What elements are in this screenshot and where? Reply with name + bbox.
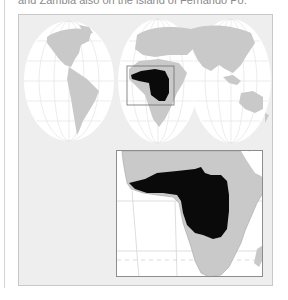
lobe-asia-australia — [191, 19, 271, 143]
world-map — [19, 15, 272, 149]
map-figure — [18, 14, 273, 286]
lobe-americas — [24, 21, 114, 141]
inset-svg — [117, 151, 263, 277]
madagascar — [254, 245, 263, 267]
caption-text: and Zambia also on the island of Fernand… — [18, 0, 278, 6]
lobe-europe-africa — [118, 19, 198, 143]
margin-rule — [4, 0, 5, 288]
inset-map-africa — [116, 150, 263, 277]
